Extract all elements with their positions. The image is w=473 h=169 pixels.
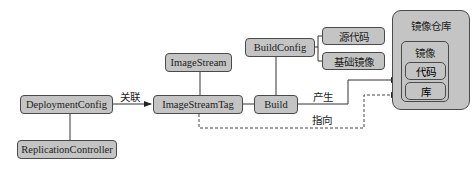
deployment-config-node: DeploymentConfig	[20, 95, 113, 114]
image-stream-node: ImageStream	[165, 53, 232, 72]
edge-label-produce: 产生	[313, 89, 333, 104]
build-config-node: BuildConfig	[245, 38, 315, 57]
replication-controller-node: ReplicationController	[17, 140, 117, 159]
image-label: 镜像	[402, 45, 448, 60]
edge-label-associate: 关联	[120, 89, 140, 104]
code-node: 代码	[405, 62, 446, 80]
image-container: 镜像 代码 库	[401, 41, 449, 102]
image-registry-container: 镜像仓库 镜像 代码 库	[392, 10, 470, 110]
library-node: 库	[405, 82, 446, 100]
base-image-node: 基础镜像	[322, 52, 385, 70]
image-stream-tag-node: ImageStreamTag	[153, 95, 243, 114]
source-code-node: 源代码	[322, 27, 385, 45]
build-node: Build	[254, 95, 298, 114]
edge-label-point-to: 指向	[312, 112, 332, 127]
image-registry-label: 镜像仓库	[393, 18, 469, 33]
